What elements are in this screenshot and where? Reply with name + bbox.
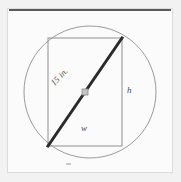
diagram-canvas: [0, 0, 181, 182]
circle-shape: [24, 26, 156, 158]
geometry-figure: 15 in. h w: [0, 0, 181, 182]
width-label: w: [81, 123, 87, 133]
scan-artifact-mark: [66, 163, 71, 165]
height-label: h: [127, 85, 132, 95]
center-marker-icon: [82, 89, 88, 95]
